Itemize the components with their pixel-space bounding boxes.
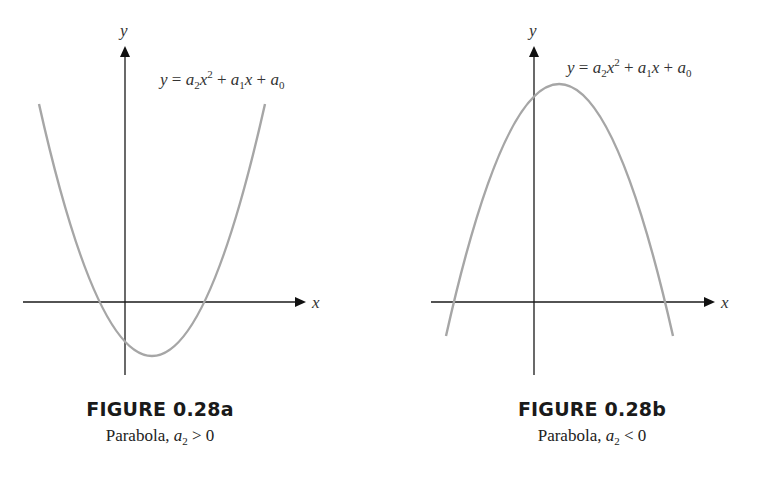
- figure-b-subtitle: Parabola, a2 < 0: [462, 426, 722, 447]
- figure-b-title: FIGURE 0.28b: [462, 398, 722, 420]
- figure-b-parabola-curve: [446, 84, 673, 336]
- figure-a-subtitle: Parabola, a2 > 0: [30, 426, 290, 447]
- figure-a-title: FIGURE 0.28a: [30, 398, 290, 420]
- figure-b-x-axis-label: x: [720, 293, 729, 312]
- figure-a-plot: x y y = a2x2 + a1x + a0: [23, 21, 320, 375]
- figures-canvas: x y y = a2x2 + a1x + a0 x y y = a2x2 + a…: [0, 0, 759, 400]
- figure-b-plot: x y y = a2x2 + a1x + a0: [431, 21, 729, 375]
- figure-a-parabola-curve: [39, 104, 265, 356]
- figure-a-y-axis-label: y: [118, 21, 128, 40]
- figure-a-equation: y = a2x2 + a1x + a0: [158, 68, 285, 91]
- figure-a-y-axis-arrow-icon: [120, 46, 130, 57]
- figure-a-x-axis-label: x: [311, 293, 320, 312]
- figure-b-y-axis-label: y: [527, 21, 537, 40]
- figure-a-caption: FIGURE 0.28a Parabola, a2 > 0: [30, 398, 290, 447]
- figure-b-x-axis-arrow-icon: [704, 297, 715, 307]
- figure-b-y-axis-arrow-icon: [529, 46, 539, 57]
- figure-b-caption: FIGURE 0.28b Parabola, a2 < 0: [462, 398, 722, 447]
- figure-a-x-axis-arrow-icon: [295, 297, 306, 307]
- figure-b-equation: y = a2x2 + a1x + a0: [565, 56, 692, 79]
